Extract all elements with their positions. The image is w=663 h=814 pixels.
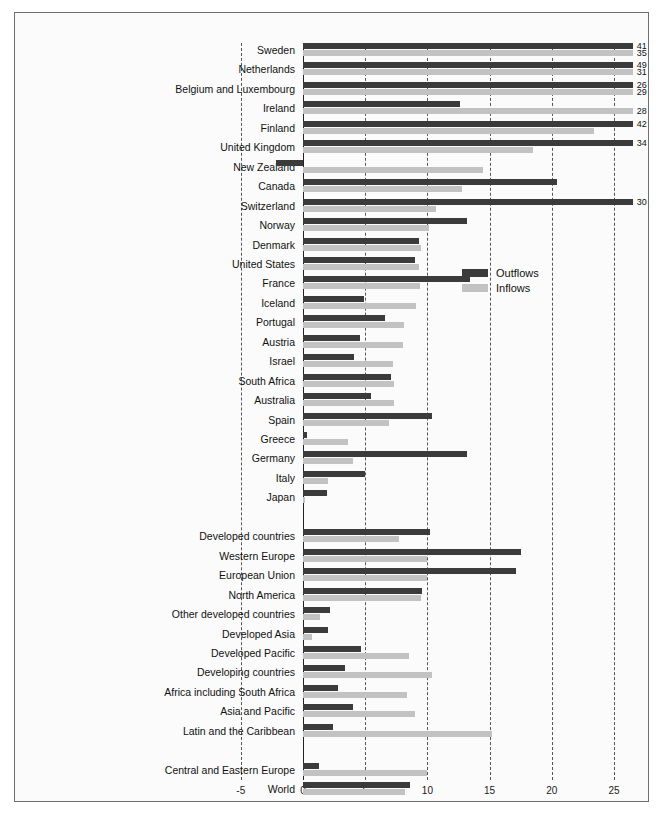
category-label: Africa including South Africa <box>37 687 295 697</box>
bar-inflow <box>303 400 394 406</box>
bar-inflow <box>303 50 633 56</box>
bar-outflow <box>303 432 307 438</box>
bar-outflow <box>303 471 365 477</box>
bar-inflow <box>303 672 432 678</box>
category-label: European Union <box>37 570 295 580</box>
bar-inflow <box>303 556 427 562</box>
bar-outflow <box>303 588 422 594</box>
bar-inflow <box>303 186 462 192</box>
bar-outflow <box>303 218 467 224</box>
chart-legend: Outflows Inflows <box>462 265 539 295</box>
category-label: Developed countries <box>37 531 295 541</box>
category-label: Italy <box>37 473 295 483</box>
bar-outflow <box>303 82 633 88</box>
category-label: United Kingdom <box>37 142 295 152</box>
bar-outflow <box>303 62 633 68</box>
legend-entry-inflows: Inflows <box>462 280 539 295</box>
gridline-20 <box>552 43 553 780</box>
bar-inflow <box>303 342 403 348</box>
category-label: Other developed countries <box>37 609 295 619</box>
category-label: Netherlands <box>37 64 295 74</box>
bar-outflow <box>303 724 333 730</box>
value-label-inflow: 31 <box>637 68 647 77</box>
category-label: Latin and the Caribbean <box>37 726 295 736</box>
bar-inflow <box>303 634 312 640</box>
bar-inflow <box>303 381 394 387</box>
x-tick-label: 15 <box>484 785 495 796</box>
bar-outflow <box>303 529 430 535</box>
category-label: United States <box>37 259 295 269</box>
bar-inflow <box>303 128 594 134</box>
bar-inflow <box>303 575 427 581</box>
category-label: Finland <box>37 123 295 133</box>
bar-inflow <box>303 711 415 717</box>
category-label: Spain <box>37 415 295 425</box>
gridline-5 <box>365 43 366 780</box>
bar-outflow <box>303 685 338 691</box>
bar-outflow <box>303 354 354 360</box>
bar-outflow <box>303 704 353 710</box>
category-label: Central and Eastern Europe <box>37 765 295 775</box>
bar-inflow <box>303 303 416 309</box>
value-label-inflow: 28 <box>637 107 647 116</box>
category-label: Australia <box>37 395 295 405</box>
bar-outflow <box>303 763 319 769</box>
bar-outflow <box>303 549 521 555</box>
category-label: Denmark <box>37 240 295 250</box>
bar-outflow <box>303 782 410 788</box>
category-label: Israel <box>37 356 295 366</box>
category-label: Developed Asia <box>37 629 295 639</box>
bar-outflow <box>303 627 328 633</box>
bar-outflow <box>303 238 419 244</box>
legend-label-inflows: Inflows <box>496 282 530 294</box>
category-label: Greece <box>37 434 295 444</box>
category-label: World <box>37 784 295 794</box>
bar-inflow <box>303 420 389 426</box>
bar-inflow <box>303 264 419 270</box>
bar-outflow <box>303 276 470 282</box>
category-label: Germany <box>37 453 295 463</box>
bar-inflow <box>303 653 409 659</box>
category-label: North America <box>37 590 295 600</box>
bar-inflow <box>303 69 633 75</box>
gridline-15 <box>490 43 491 780</box>
value-label-inflow: 35 <box>637 49 647 58</box>
bar-inflow <box>303 770 427 776</box>
chart-figure: -50510152025 Sweden4135Netherlands4931Be… <box>0 0 663 814</box>
bar-inflow <box>303 225 429 231</box>
bar-inflow <box>303 167 483 173</box>
bar-inflow <box>303 89 633 95</box>
bar-inflow <box>303 614 320 620</box>
value-label-outflow: 42 <box>637 120 647 129</box>
category-label: Switzerland <box>37 201 295 211</box>
category-label: Developing countries <box>37 667 295 677</box>
bar-outflow <box>303 393 371 399</box>
bar-outflow <box>303 607 330 613</box>
bar-outflow <box>303 43 633 49</box>
x-tick-label: 25 <box>608 785 619 796</box>
bar-inflow <box>303 478 328 484</box>
bar-outflow <box>276 160 303 166</box>
bar-inflow <box>303 147 533 153</box>
category-label: Norway <box>37 220 295 230</box>
chart-frame: -50510152025 Sweden4135Netherlands4931Be… <box>14 12 649 802</box>
category-label: Western Europe <box>37 551 295 561</box>
bar-outflow <box>303 315 385 321</box>
bar-outflow <box>303 568 516 574</box>
bar-inflow <box>303 206 436 212</box>
bar-outflow <box>303 335 360 341</box>
bar-outflow <box>303 179 557 185</box>
category-label: France <box>37 278 295 288</box>
category-label: Asia and Pacific <box>37 706 295 716</box>
bar-inflow <box>303 692 407 698</box>
bar-inflow <box>303 439 348 445</box>
bar-inflow <box>303 536 399 542</box>
bar-inflow <box>303 789 405 795</box>
bar-inflow <box>303 283 420 289</box>
plot-area: -50510152025 Sweden4135Netherlands4931Be… <box>37 33 656 805</box>
bar-outflow <box>303 140 633 146</box>
category-label: Canada <box>37 181 295 191</box>
legend-entry-outflows: Outflows <box>462 265 539 280</box>
bar-inflow <box>303 322 404 328</box>
bar-outflow <box>303 646 361 652</box>
